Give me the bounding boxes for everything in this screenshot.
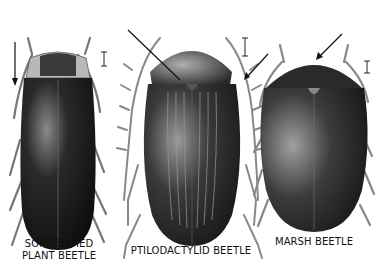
- scale-bar-3: [364, 61, 370, 73]
- label-soft-bodied-plant-beetle: SOFT-BODIED PLANT BEETLE: [14, 238, 104, 262]
- label-line: MARSH BEETLE: [274, 236, 354, 248]
- label-line: SOFT-BODIED: [14, 238, 104, 250]
- ptilodactylid-beetle-body: [144, 51, 240, 246]
- label-line: PTILODACTYLID BEETLE: [126, 245, 256, 257]
- label-marsh-beetle: MARSH BEETLE: [274, 236, 354, 248]
- label-line: PLANT BEETLE: [14, 250, 104, 262]
- label-ptilodactylid-beetle: PTILODACTYLID BEETLE: [126, 245, 256, 257]
- beetle-illustration: [0, 0, 385, 273]
- scale-bar-2: [242, 38, 248, 56]
- arrow-3: [318, 34, 342, 58]
- scale-bar-1: [101, 52, 107, 66]
- arrow-2b: [246, 54, 268, 78]
- soft-bodied-plant-beetle-body: [20, 52, 95, 250]
- marsh-beetle-body: [260, 65, 367, 232]
